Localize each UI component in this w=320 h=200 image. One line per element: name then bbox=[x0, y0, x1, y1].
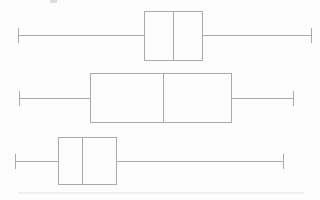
boxplot-top-whisker-left-line bbox=[18, 35, 144, 36]
boxplot-middle-whisker-right-line bbox=[232, 98, 293, 99]
bottom-faint-line-artifact bbox=[18, 192, 304, 194]
boxplot-bottom-median-line bbox=[82, 137, 83, 185]
boxplot-middle-median-line bbox=[163, 73, 164, 123]
boxplot-chart bbox=[0, 0, 320, 200]
boxplot-middle-iqr-box bbox=[90, 73, 232, 123]
top-edge-artifact bbox=[50, 0, 57, 3]
boxplot-middle-whisker-right-cap bbox=[293, 91, 294, 106]
boxplot-top-median-line bbox=[173, 11, 174, 61]
boxplot-bottom-iqr-box bbox=[58, 137, 117, 185]
boxplot-middle-whisker-left-line bbox=[19, 98, 90, 99]
boxplot-top-whisker-left-cap bbox=[18, 28, 19, 43]
boxplot-bottom-whisker-right-cap bbox=[283, 154, 284, 169]
boxplot-top-whisker-right-cap bbox=[311, 28, 312, 43]
boxplot-bottom-whisker-left-line bbox=[15, 161, 58, 162]
boxplot-middle-whisker-left-cap bbox=[19, 91, 20, 106]
boxplot-bottom-whisker-right-line bbox=[117, 161, 283, 162]
boxplot-bottom-whisker-left-cap bbox=[15, 154, 16, 169]
boxplot-top-whisker-right-line bbox=[203, 35, 311, 36]
